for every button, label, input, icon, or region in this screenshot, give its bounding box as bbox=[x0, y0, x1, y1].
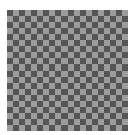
checkerboard bbox=[7, 10, 128, 131]
dark-square bbox=[122, 125, 128, 131]
